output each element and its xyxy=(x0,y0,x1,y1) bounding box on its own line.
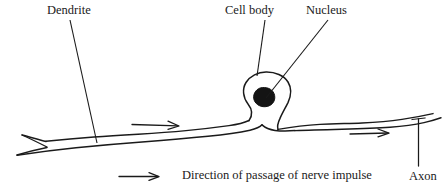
axon-arrow-left xyxy=(132,121,179,129)
label-cell-body: Cell body xyxy=(225,4,274,17)
impulse-direction-caption: Direction of passage of nerve impulse xyxy=(182,169,372,182)
axon-arrow-right xyxy=(350,129,389,137)
legend-arrow xyxy=(119,173,159,181)
dendrite-leader-line xyxy=(70,20,97,143)
neuron-drawing xyxy=(0,0,447,193)
axon-fibre-upper xyxy=(278,114,433,130)
neuron-diagram: Dendrite Cell body Nucleus Axon Directio… xyxy=(0,0,447,193)
nucleus-leader-line xyxy=(266,20,328,98)
label-dendrite: Dendrite xyxy=(47,4,91,17)
cell-body-leader-line xyxy=(257,20,265,76)
label-axon: Axon xyxy=(409,170,437,183)
neuron-fibre-upper xyxy=(46,121,249,142)
label-nucleus: Nucleus xyxy=(306,4,347,17)
